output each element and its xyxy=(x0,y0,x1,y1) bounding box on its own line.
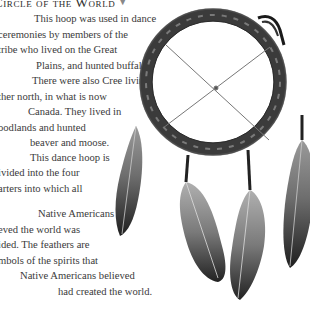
text-line: mbols of the spirits that xyxy=(0,254,98,267)
text-line: oodlands and hunted xyxy=(0,121,86,134)
dance-hoop-illustration xyxy=(100,0,310,314)
feather-icon xyxy=(230,150,265,300)
text-line: eved the world was xyxy=(0,223,80,236)
feather-icon xyxy=(180,155,226,282)
feather-icon xyxy=(116,126,143,236)
text-line: arters into which all xyxy=(0,182,82,195)
text-line: This dance hoop is xyxy=(30,151,110,164)
text-line: ivided into the four xyxy=(0,166,80,179)
feather-icon xyxy=(283,115,310,268)
text-line: beaver and moose. xyxy=(30,136,109,149)
text-line: ided. The feathers are xyxy=(0,238,90,251)
cross-strings-icon xyxy=(163,45,270,140)
text-line: ther north, in what is now xyxy=(0,90,107,103)
hoop-ring-icon xyxy=(140,9,286,155)
